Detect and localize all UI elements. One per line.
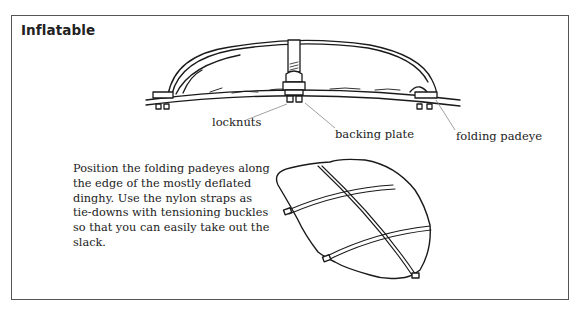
figure-caption: Position the folding padeyes along the e…	[73, 162, 273, 251]
label-locknuts: locknuts	[212, 115, 261, 129]
label-folding-padeye: folding padeye	[456, 129, 542, 143]
dinghy-top-view-illustration	[0, 0, 580, 310]
label-backing-plate: backing plate	[335, 127, 414, 141]
